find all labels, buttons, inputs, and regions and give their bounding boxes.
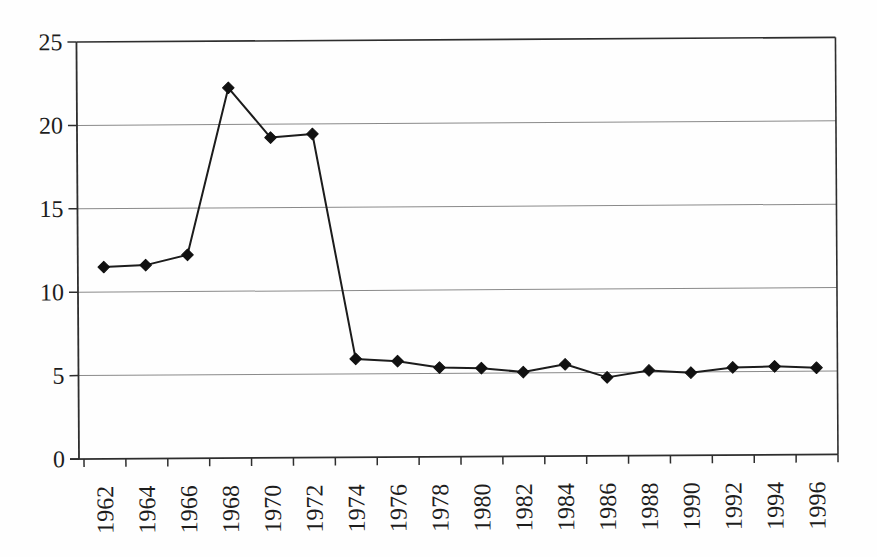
data-point-marker bbox=[476, 362, 488, 374]
x-tick-label: 1992 bbox=[720, 482, 746, 530]
data-point-marker bbox=[685, 367, 697, 379]
x-tick-label: 1968 bbox=[218, 485, 244, 533]
y-tick-label: 10 bbox=[40, 279, 64, 305]
y-tick-label: 0 bbox=[53, 446, 65, 472]
data-point-marker bbox=[769, 361, 781, 373]
x-tick-label: 1972 bbox=[302, 484, 328, 532]
data-point-marker bbox=[601, 372, 613, 384]
data-point-marker bbox=[140, 259, 152, 271]
data-point-marker bbox=[350, 353, 362, 365]
data-point-marker bbox=[517, 366, 529, 378]
x-tick-label: 1996 bbox=[804, 481, 830, 529]
data-point-marker bbox=[434, 362, 446, 374]
data-point-marker bbox=[559, 358, 571, 370]
x-tick-label: 1984 bbox=[553, 483, 579, 531]
x-tick-label: 1982 bbox=[511, 483, 537, 531]
x-tick-label: 1976 bbox=[385, 484, 411, 532]
gridline bbox=[78, 288, 837, 293]
y-tick-label: 5 bbox=[52, 363, 64, 389]
y-tick-label: 15 bbox=[39, 196, 63, 222]
data-line bbox=[103, 84, 817, 380]
data-point-marker bbox=[307, 128, 319, 140]
chart-canvas: 0510152025196219641966196819701972197419… bbox=[0, 0, 877, 557]
y-tick-label: 25 bbox=[38, 29, 62, 55]
data-point-marker bbox=[643, 365, 655, 377]
x-tick-label: 1962 bbox=[92, 486, 118, 534]
x-tick-label: 1990 bbox=[679, 482, 705, 530]
x-tick-label: 1964 bbox=[134, 486, 160, 534]
gridline bbox=[77, 121, 836, 126]
chart-area: 0510152025196219641966196819701972197419… bbox=[0, 0, 877, 557]
x-tick-label: 1986 bbox=[595, 483, 621, 531]
data-point-marker bbox=[182, 249, 194, 261]
x-tick-label: 1994 bbox=[762, 482, 788, 530]
x-tick-label: 1966 bbox=[176, 485, 202, 533]
data-point-marker bbox=[98, 261, 110, 273]
plot-border-right bbox=[835, 37, 838, 454]
data-point-marker bbox=[392, 355, 404, 367]
gridline bbox=[78, 371, 837, 376]
y-tick-label: 20 bbox=[39, 112, 63, 138]
x-tick-label: 1988 bbox=[637, 482, 663, 530]
data-point-marker bbox=[811, 362, 823, 374]
x-axis bbox=[70, 454, 838, 459]
x-tick-label: 1970 bbox=[260, 485, 286, 533]
x-tick-label: 1978 bbox=[427, 484, 453, 532]
y-axis bbox=[76, 42, 79, 459]
plot-border-top bbox=[76, 37, 835, 42]
x-tick-label: 1974 bbox=[343, 484, 369, 532]
gridline bbox=[77, 204, 836, 209]
x-tick-label: 1980 bbox=[469, 483, 495, 531]
line-chart: 0510152025196219641966196819701972197419… bbox=[0, 0, 877, 557]
